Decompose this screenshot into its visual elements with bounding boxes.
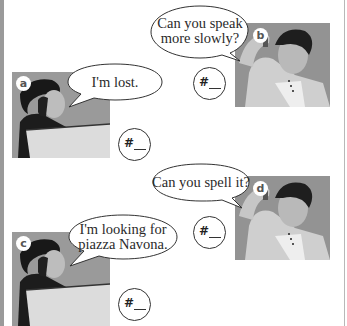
answer-prefix: # (199, 224, 209, 238)
answer-field-b[interactable]: # (193, 67, 226, 100)
answer-blank-line (209, 237, 221, 238)
answer-prefix: # (124, 136, 134, 150)
speech-bubble-b: Can you speak more slowly? (150, 5, 250, 57)
item-label-badge: b (253, 28, 268, 43)
answer-field-c[interactable]: # (118, 288, 151, 321)
page-left-border (0, 0, 4, 326)
item-label-badge: d (253, 181, 268, 196)
item-label-badge: c (16, 236, 31, 251)
speech-bubble-a: I'm lost. (67, 63, 163, 101)
speech-text: I'm lost. (67, 63, 163, 101)
answer-blank-line (134, 149, 146, 150)
answer-field-a[interactable]: # (118, 128, 151, 161)
answer-blank-line (134, 309, 146, 310)
answer-prefix: # (124, 296, 134, 310)
speech-text: I'm looking for piazza Navona. (68, 214, 178, 260)
speech-text: Can you spell it? (152, 163, 250, 201)
answer-blank-line (209, 88, 221, 89)
speech-bubble-c: I'm looking for piazza Navona. (68, 214, 178, 260)
speech-text: Can you speak more slowly? (150, 5, 250, 57)
answer-field-d[interactable]: # (193, 216, 226, 249)
item-label-badge: a (16, 76, 31, 91)
answer-prefix: # (199, 75, 209, 89)
page-right-border (344, 0, 345, 326)
speech-bubble-d: Can you spell it? (152, 163, 250, 201)
